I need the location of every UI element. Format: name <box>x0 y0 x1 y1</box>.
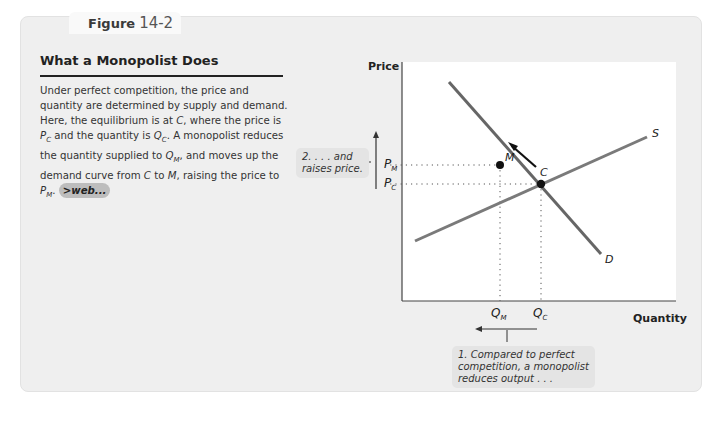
qc-tick: QC <box>533 306 547 322</box>
pc-tick: PC <box>384 176 396 192</box>
point-c-label: C <box>540 166 548 179</box>
price-callout: 2. . . . and raises price. <box>296 148 369 178</box>
y-axis-label: Price <box>368 60 399 73</box>
demand-label: D <box>605 253 613 266</box>
qm-tick: QM <box>491 306 507 322</box>
supply-label: S <box>652 127 659 140</box>
point-c <box>537 180 545 188</box>
output-callout: 1. Compared to perfect competition, a mo… <box>452 346 595 388</box>
pm-tick: PM <box>384 157 397 173</box>
point-m <box>496 161 504 169</box>
supply-curve <box>415 137 647 241</box>
point-m-label: M <box>505 151 515 164</box>
chart-graphics <box>0 0 716 431</box>
x-axis-label: Quantity <box>633 312 687 325</box>
